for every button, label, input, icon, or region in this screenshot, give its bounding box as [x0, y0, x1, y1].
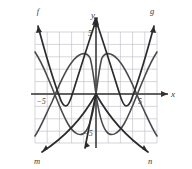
- coordinate-plane-svg: x y −5 5 5 −5 f g m n: [0, 0, 192, 169]
- y-axis-label: y: [90, 10, 95, 20]
- curve-label-g: g: [150, 6, 154, 16]
- x-tick-negative-5: −5: [36, 97, 45, 106]
- curve-label-n: n: [148, 156, 152, 166]
- curve-label-m: m: [34, 156, 40, 166]
- graph-figure: x y −5 5 5 −5 f g m n: [0, 0, 192, 169]
- x-axis-label: x: [170, 89, 175, 99]
